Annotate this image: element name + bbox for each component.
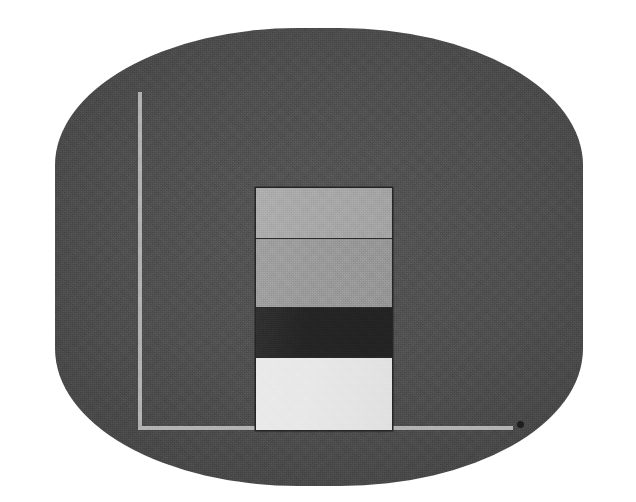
segment-tone-drift (256, 358, 392, 430)
bar-segment-3[interactable] (256, 307, 392, 357)
stacked-bar[interactable] (256, 188, 392, 430)
figure-root (0, 0, 636, 502)
axis-end-dot-marker (517, 421, 524, 428)
bar-segment-2[interactable] (256, 238, 392, 307)
y-axis-line (138, 92, 142, 430)
bar-segment-1[interactable] (256, 188, 392, 238)
segment-tone-drift (256, 239, 392, 307)
segment-tone-drift (256, 188, 392, 238)
segment-tone-drift (256, 308, 392, 357)
plot-area (0, 0, 636, 502)
bar-segment-4[interactable] (256, 357, 392, 430)
